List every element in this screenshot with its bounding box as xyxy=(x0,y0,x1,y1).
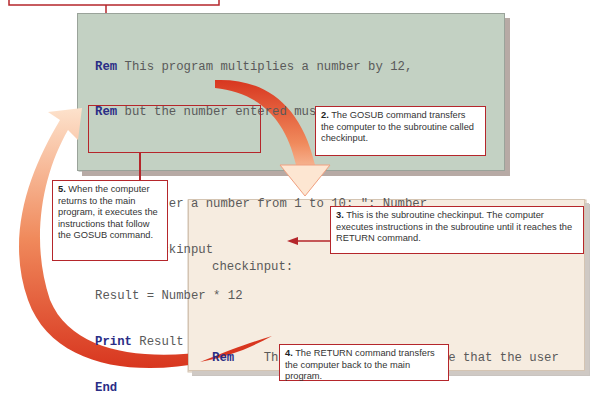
callout-5: 5. When the computer returns to the main… xyxy=(52,180,168,261)
callout-4: 4. The RETURN command transfers the comp… xyxy=(279,344,449,381)
callout-3: 3. This is the subroutine checkinput. Th… xyxy=(330,206,584,254)
callout-2: 2. The GOSUB command transfers the compu… xyxy=(315,106,486,156)
arrowhead-left-icon xyxy=(287,237,298,245)
